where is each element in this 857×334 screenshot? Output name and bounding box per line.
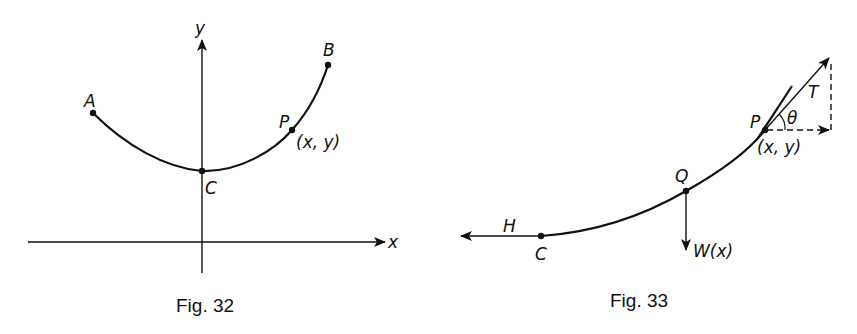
label-P-coords: (x, y): [296, 132, 340, 152]
label-theta: θ: [787, 108, 798, 128]
point-C: [199, 168, 205, 174]
caption-fig-32: Fig. 32: [176, 295, 234, 316]
label-P: P: [750, 112, 761, 132]
figures-canvas: y x A B C P (x, y) Fig. 32 H C Q W(x): [0, 0, 857, 334]
label-C: C: [205, 178, 217, 198]
label-C: C: [535, 244, 547, 264]
point-B: [325, 62, 331, 68]
cable-curve: [93, 65, 328, 171]
label-P: P: [279, 112, 290, 132]
point-P: [762, 127, 768, 133]
cable-segment-curve: [541, 130, 765, 236]
label-B: B: [323, 40, 335, 60]
y-axis-label: y: [194, 18, 206, 38]
x-axis-label: x: [387, 232, 399, 252]
point-C: [538, 233, 544, 239]
figure-32: y x A B C P (x, y) Fig. 32: [28, 18, 399, 316]
label-W: W(x): [693, 241, 733, 261]
label-A: A: [83, 91, 96, 111]
caption-fig-33: Fig. 33: [610, 290, 668, 311]
figure-33: H C Q W(x) P (x, y) θ T Fig. 33: [461, 58, 831, 311]
label-Q: Q: [675, 166, 688, 186]
point-Q: [683, 188, 689, 194]
label-P-coords: (x, y): [757, 137, 801, 157]
angle-theta-arc: [779, 114, 785, 130]
label-T: T: [808, 82, 820, 102]
label-H: H: [503, 216, 516, 236]
point-P: [289, 127, 295, 133]
